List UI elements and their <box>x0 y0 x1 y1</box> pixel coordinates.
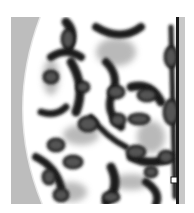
texture-image-svg <box>11 17 185 204</box>
right-strip <box>179 17 185 204</box>
right-border <box>176 17 179 204</box>
texture-image <box>11 17 185 204</box>
